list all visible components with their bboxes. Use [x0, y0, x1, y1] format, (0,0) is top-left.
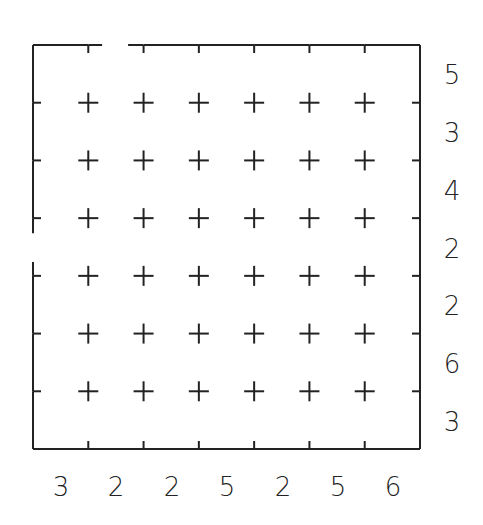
column-clue-6: 5 — [323, 474, 353, 500]
row-clue-1: 5 — [440, 62, 464, 88]
row-clue-4: 2 — [440, 236, 464, 262]
column-clue-5: 2 — [268, 474, 298, 500]
row-clue-3: 4 — [440, 178, 464, 204]
row-clue-7: 3 — [440, 409, 464, 435]
row-clue-5: 2 — [440, 293, 464, 319]
column-clue-3: 2 — [157, 474, 187, 500]
column-clue-4: 5 — [212, 474, 242, 500]
row-clue-2: 3 — [440, 120, 464, 146]
column-clue-1: 3 — [46, 474, 76, 500]
column-clue-2: 2 — [101, 474, 131, 500]
row-clue-6: 6 — [440, 351, 464, 377]
puzzle-grid[interactable] — [0, 0, 483, 525]
column-clue-7: 6 — [378, 474, 408, 500]
